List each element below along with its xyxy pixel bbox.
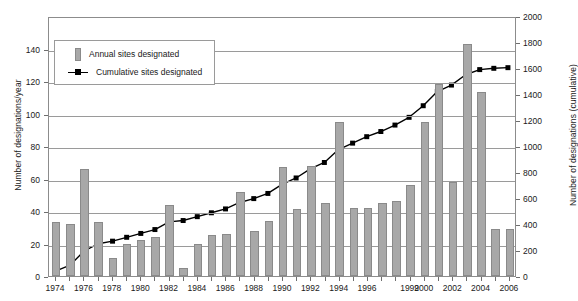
line-marker-1988: [251, 196, 256, 201]
x-axis-tick-label-1976: 1976: [68, 284, 98, 293]
bar-1978: [109, 258, 118, 276]
bar-1997: [378, 203, 387, 276]
x-axis-tick-mark: [381, 277, 382, 281]
x-axis-tick-mark: [495, 277, 496, 281]
legend-item-annual: Annual sites designated: [63, 46, 179, 62]
bar-2003: [463, 44, 472, 276]
y-axis-right-tick-label: 400: [523, 221, 537, 230]
bar-2001: [435, 84, 444, 276]
bar-1998: [392, 201, 401, 276]
line-marker-1984: [195, 214, 200, 219]
x-axis-tick-mark: [339, 277, 340, 281]
x-axis-tick-mark: [55, 277, 56, 281]
bar-2006: [506, 229, 515, 276]
x-axis-tick-mark: [395, 277, 396, 281]
line-marker-1998: [392, 123, 397, 128]
y-axis-left-tick-mark: [44, 277, 48, 278]
line-marker-1986: [223, 206, 228, 211]
x-axis-tick-mark: [452, 277, 453, 281]
x-axis-tick-label-2004: 2004: [466, 284, 496, 293]
y-axis-left-tick-mark: [44, 180, 48, 181]
x-axis-tick-mark: [112, 277, 113, 281]
bar-1983: [179, 268, 188, 276]
y-axis-left-title: Number of designations/year: [13, 45, 23, 225]
y-axis-right-tick-label: 0: [523, 273, 528, 282]
x-axis-tick-mark: [296, 277, 297, 281]
x-axis-tick-mark: [154, 277, 155, 281]
bar-2004: [477, 92, 486, 276]
bar-1982: [165, 205, 174, 277]
x-axis-tick-mark: [481, 277, 482, 281]
y-axis-left-tick-label: 60: [0, 176, 40, 185]
line-marker-2005: [491, 66, 496, 71]
bar-1994: [335, 122, 344, 276]
x-axis-tick-mark: [268, 277, 269, 281]
bar-1995: [350, 208, 359, 276]
x-axis-tick-mark: [211, 277, 212, 281]
line-marker-1981: [152, 227, 157, 232]
line-marker-1997: [378, 129, 383, 134]
bar-1992: [307, 166, 316, 277]
x-axis-tick-mark: [183, 277, 184, 281]
chart-legend: Annual sites designated Cumulative sites…: [54, 40, 215, 85]
y-axis-left-tick-label: 20: [0, 241, 40, 250]
y-axis-right-tick-label: 800: [523, 169, 537, 178]
legend-label-annual: Annual sites designated: [89, 49, 179, 59]
line-marker-1980: [138, 231, 143, 236]
bar-1985: [208, 235, 217, 276]
x-axis-tick-label-1986: 1986: [210, 284, 240, 293]
x-axis-tick-label-1988: 1988: [239, 284, 269, 293]
y-axis-right-tick-mark: [516, 147, 520, 148]
bar-swatch-icon: [75, 48, 81, 61]
legend-item-cumulative: Cumulative sites designated: [63, 64, 202, 80]
line-marker-1995: [350, 141, 355, 146]
bar-1991: [293, 209, 302, 276]
x-axis-tick-label-1974: 1974: [40, 284, 70, 293]
bar-1999: [406, 185, 415, 276]
y-axis-left-tick-mark: [44, 245, 48, 246]
x-axis-tick-mark: [126, 277, 127, 281]
y-axis-right-tick-mark: [516, 251, 520, 252]
y-axis-left-tick-mark: [44, 147, 48, 148]
x-axis-tick-label-1994: 1994: [324, 284, 354, 293]
y-axis-left-tick-mark: [44, 82, 48, 83]
y-axis-right-title: Number of designations (cumulative): [568, 35, 578, 235]
line-marker-1979: [124, 235, 129, 240]
bar-1976: [80, 169, 89, 276]
y-axis-right-tick-mark: [516, 43, 520, 44]
x-axis-tick-label-2006: 2006: [494, 284, 524, 293]
x-axis-tick-mark: [197, 277, 198, 281]
y-axis-left-tick-label: 100: [0, 111, 40, 120]
x-axis-tick-label-1996: 1996: [352, 284, 382, 293]
x-axis-tick-mark: [310, 277, 311, 281]
x-axis-tick-label-1992: 1992: [295, 284, 325, 293]
line-marker-2000: [421, 103, 426, 108]
gridline: [49, 148, 515, 149]
x-axis-tick-mark: [325, 277, 326, 281]
x-axis-tick-label-2002: 2002: [437, 284, 467, 293]
bar-1996: [364, 208, 373, 276]
x-axis-tick-mark: [438, 277, 439, 281]
line-marker-1993: [322, 160, 327, 165]
y-axis-right-tick-label: 1400: [523, 91, 542, 100]
bar-1981: [151, 237, 160, 276]
x-axis-tick-mark: [509, 277, 510, 281]
x-axis-tick-label-1982: 1982: [154, 284, 184, 293]
y-axis-right-tick-mark: [516, 173, 520, 174]
y-axis-right-tick-mark: [516, 69, 520, 70]
y-axis-right-tick-label: 1800: [523, 39, 542, 48]
bar-2005: [491, 229, 500, 276]
x-axis-tick-mark: [98, 277, 99, 281]
bar-1988: [250, 231, 259, 277]
y-axis-right-tick-mark: [516, 121, 520, 122]
bar-1977: [94, 222, 103, 276]
x-axis-tick-mark: [254, 277, 255, 281]
x-axis-tick-label-2000: 2000: [409, 284, 439, 293]
bar-1980: [137, 240, 146, 276]
x-axis-tick-mark: [282, 277, 283, 281]
gridline: [49, 116, 515, 117]
bar-1975: [66, 224, 75, 276]
x-axis-tick-label-1990: 1990: [267, 284, 297, 293]
x-axis-tick-mark: [225, 277, 226, 281]
